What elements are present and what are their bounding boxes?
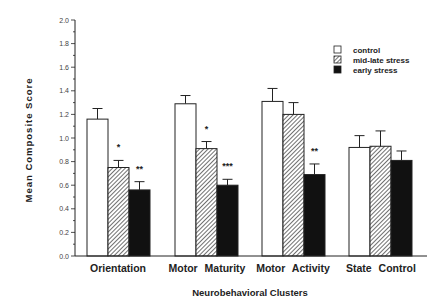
bar-control — [349, 147, 370, 256]
y-tick-label: 0.0 — [59, 253, 69, 260]
bar-control — [87, 119, 108, 256]
legend: controlmid-late stressearly stress — [334, 46, 410, 75]
y-axis-title: Mean Composite Score — [23, 77, 34, 202]
bar-control — [175, 104, 196, 256]
y-tick-label: 2.0 — [59, 17, 69, 24]
y-tick-label: 0.6 — [59, 182, 69, 189]
legend-swatch — [334, 46, 341, 53]
significance-marker: * — [205, 124, 209, 134]
y-tick-label: 1.8 — [59, 40, 69, 47]
y-tick-label: 0.4 — [59, 205, 69, 212]
legend-label: control — [353, 46, 380, 55]
x-category-label: State Control — [346, 262, 416, 274]
bar-mid-late-stress — [196, 149, 217, 256]
x-category-label: Motor Activity — [256, 262, 330, 274]
y-tick-label: 1.4 — [59, 87, 69, 94]
bar-mid-late-stress — [108, 168, 129, 257]
y-tick-label: 0.2 — [59, 229, 69, 236]
x-axis-title: Neurobehavioral Clusters — [192, 287, 308, 298]
legend-label: mid-late stress — [353, 56, 410, 65]
bar-control — [262, 101, 283, 256]
legend-swatch — [334, 66, 341, 73]
bars: ********* — [87, 88, 412, 256]
bar-early-stress — [391, 160, 412, 256]
x-category-label: Motor Maturity — [169, 262, 246, 274]
bar-early-stress — [129, 190, 150, 256]
significance-marker: *** — [222, 161, 233, 171]
significance-marker: * — [117, 142, 121, 152]
bar-chart: 0.00.20.40.60.81.01.21.41.61.82.0 ******… — [0, 0, 447, 304]
bar-mid-late-stress — [283, 114, 304, 256]
bar-early-stress — [217, 185, 238, 256]
significance-marker: ** — [136, 164, 144, 174]
y-tick-label: 1.0 — [59, 135, 69, 142]
legend-label: early stress — [353, 66, 398, 75]
significance-marker: ** — [311, 146, 319, 156]
y-tick-label: 0.8 — [59, 158, 69, 165]
y-tick-label: 1.2 — [59, 111, 69, 118]
x-axis: OrientationMotor MaturityMotor ActivityS… — [75, 256, 427, 274]
legend-swatch — [334, 56, 341, 63]
y-axis: 0.00.20.40.60.81.01.21.41.61.82.0 — [59, 17, 75, 260]
bar-early-stress — [304, 175, 325, 256]
x-category-label: Orientation — [90, 262, 146, 274]
y-tick-label: 1.6 — [59, 64, 69, 71]
bar-mid-late-stress — [370, 146, 391, 256]
